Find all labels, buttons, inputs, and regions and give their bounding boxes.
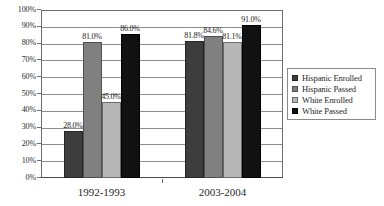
- legend-item[interactable]: White Passed: [292, 105, 372, 116]
- legend-swatch-icon: [292, 75, 298, 81]
- legend-swatch-icon: [292, 86, 298, 92]
- x-axis-category-label: 2003-2004: [173, 186, 273, 198]
- legend-swatch-icon: [292, 108, 298, 114]
- legend-item-label: Hispanic Enrolled: [302, 73, 362, 83]
- legend-item[interactable]: Hispanic Enrolled: [292, 72, 372, 83]
- legend-swatch-icon: [292, 97, 298, 103]
- x-axis-tick: [162, 179, 163, 183]
- legend-item[interactable]: Hispanic Passed: [292, 83, 372, 94]
- x-axis-category-label: 1992-1993: [52, 186, 152, 198]
- legend-item-label: White Enrolled: [302, 95, 353, 105]
- chart-legend: Hispanic EnrolledHispanic PassedWhite En…: [287, 68, 376, 120]
- bar-chart: 0%10%20%30%40%50%60%70%80%90%100% 28.0%8…: [0, 0, 384, 206]
- legend-item-label: White Passed: [302, 106, 347, 116]
- legend-item[interactable]: White Enrolled: [292, 94, 372, 105]
- legend-item-label: Hispanic Passed: [302, 84, 356, 94]
